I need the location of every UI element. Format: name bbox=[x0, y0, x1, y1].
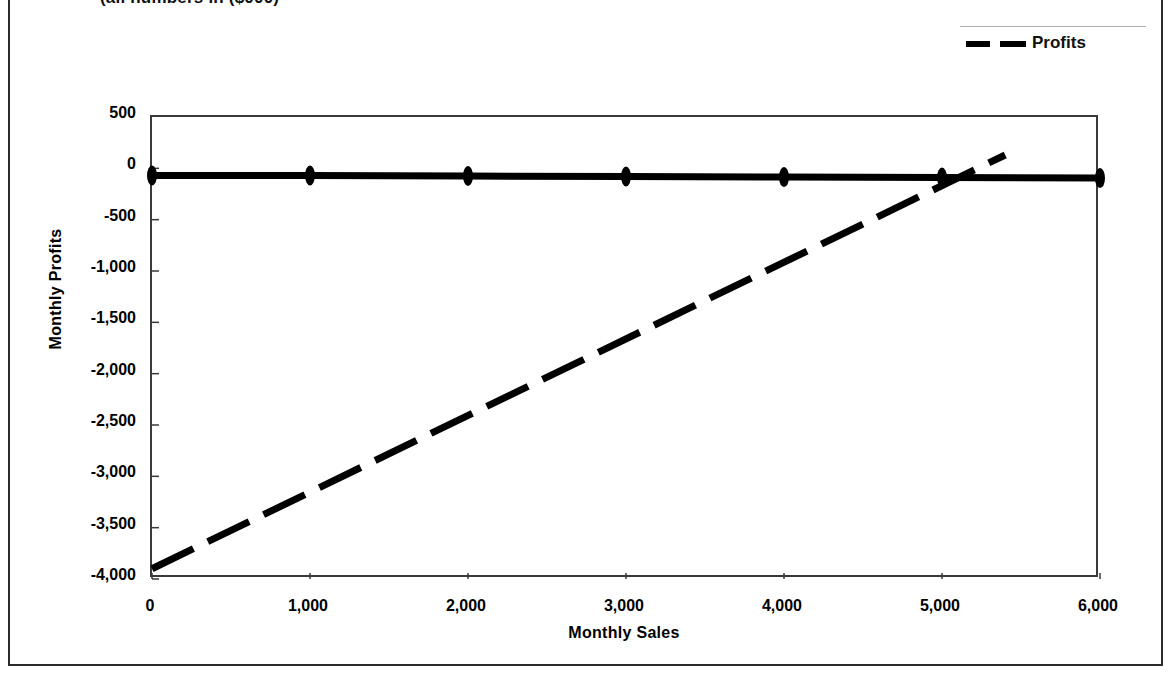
y-tick-label: 0 bbox=[40, 155, 136, 173]
y-tick-label: -500 bbox=[40, 207, 136, 225]
plot-area bbox=[150, 115, 1098, 577]
y-tick-label: -1,000 bbox=[40, 258, 136, 276]
chart-legend: Profits bbox=[952, 20, 1150, 56]
chart-figure: (all numbers in ($000) Profits Monthly P… bbox=[0, 0, 1171, 689]
y-tick-label: -3,500 bbox=[40, 515, 136, 533]
y-tick-label: -2,500 bbox=[40, 412, 136, 430]
y-tick-label: -2,000 bbox=[40, 361, 136, 379]
legend-item-profits[interactable]: Profits bbox=[964, 32, 1086, 54]
y-axis-title: Monthly Profits bbox=[47, 199, 65, 379]
legend-separator bbox=[960, 26, 1146, 27]
series-marker bbox=[147, 166, 157, 186]
x-tick-label: 1,000 bbox=[253, 597, 363, 615]
x-tick-label: 3,000 bbox=[569, 597, 679, 615]
series-marker bbox=[621, 167, 631, 187]
y-tick-label: -1,500 bbox=[40, 309, 136, 327]
series-marker bbox=[463, 166, 473, 186]
x-tick-label: 0 bbox=[95, 597, 205, 615]
y-tick-label: 500 bbox=[40, 104, 136, 122]
plot-canvas bbox=[152, 117, 1100, 579]
x-tick-label: 4,000 bbox=[727, 597, 837, 615]
y-tick-label: -4,000 bbox=[40, 566, 136, 584]
legend-item-label: Profits bbox=[1032, 34, 1086, 52]
legend-dashed-line-icon bbox=[964, 32, 1028, 54]
x-tick-label: 2,000 bbox=[411, 597, 521, 615]
series-marker bbox=[1095, 168, 1105, 188]
series-line-profits bbox=[152, 155, 1005, 569]
y-tick-label: -3,000 bbox=[40, 463, 136, 481]
x-tick-label: 5,000 bbox=[885, 597, 995, 615]
chart-title: (all numbers in ($000) bbox=[100, 0, 520, 8]
x-tick-label: 6,000 bbox=[1043, 597, 1153, 615]
x-axis-title: Monthly Sales bbox=[150, 624, 1098, 642]
series-marker bbox=[779, 167, 789, 187]
series-marker bbox=[305, 166, 315, 186]
